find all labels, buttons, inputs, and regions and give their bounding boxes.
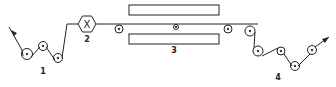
- lower-plate: [129, 34, 219, 44]
- process-diagram: X 1 2 3 4: [0, 0, 336, 87]
- label-section-1: 1: [40, 67, 46, 76]
- web-path-section-1: [22, 24, 78, 60]
- label-section-4: 4: [275, 73, 281, 82]
- roller-group-1: [22, 42, 63, 63]
- label-section-2: 2: [84, 35, 90, 44]
- upper-plate: [129, 5, 219, 15]
- hex-symbol: X: [84, 19, 91, 30]
- label-section-3: 3: [171, 46, 177, 55]
- roller-group-4: [253, 46, 317, 71]
- input-arrow-icon: [9, 27, 22, 50]
- output-arrow-icon: [315, 37, 329, 47]
